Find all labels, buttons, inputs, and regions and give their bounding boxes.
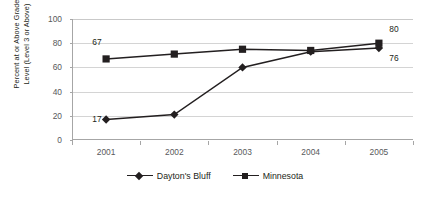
y-tickmark-100 [70,19,73,20]
y-tick-60: 60 [53,62,62,72]
y-tickmark-40 [70,92,73,93]
gridline-20 [73,116,413,117]
x-tickmark-4 [345,141,346,145]
x-tick-2002: 2002 [165,147,184,157]
x-tick-2001: 2001 [97,147,116,157]
chart-legend: Dayton's Bluff Minnesota [0,170,430,181]
gridline-80 [73,43,413,44]
x-tick-2004: 2004 [301,147,320,157]
y-tick-40: 40 [53,87,62,97]
line-chart: Percent at or Above Grade Level (Level 3… [0,0,430,198]
x-tick-2003: 2003 [233,147,252,157]
y-tick-0: 0 [57,135,62,145]
point-label-mn-2005: 80 [389,24,398,34]
x-tickmark-0 [72,141,73,145]
legend-item-daytons-bluff[interactable]: Dayton's Bluff [127,170,211,181]
x-tickmark-1 [140,141,141,145]
gridline-40 [73,92,413,93]
plot-area [72,19,413,140]
point-label-db-2001: 17 [92,114,101,124]
legend-label-minnesota: Minnesota [263,171,304,181]
y-tickmark-80 [70,43,73,44]
y-tick-20: 20 [53,111,62,121]
square-marker-icon [233,170,259,181]
point-label-db-2005: 76 [389,53,398,63]
diamond-marker-icon [127,170,153,181]
point-label-mn-2001: 67 [92,37,101,47]
gridline-100 [73,19,413,20]
y-tickmark-20 [70,116,73,117]
x-tickmark-3 [277,141,278,145]
x-tickmark-2 [208,141,209,145]
y-axis-tick-labels: 100 80 60 40 20 0 [28,19,68,140]
legend-item-minnesota[interactable]: Minnesota [233,170,304,181]
legend-label-daytons-bluff: Dayton's Bluff [157,171,211,181]
y-tickmark-60 [70,67,73,68]
x-axis-tick-labels: 2001 2002 2003 2004 2005 [72,141,413,163]
y-tick-80: 80 [53,38,62,48]
x-tickmark-5 [413,141,414,145]
gridline-60 [73,67,413,68]
y-tick-100: 100 [48,14,62,24]
x-tick-2005: 2005 [370,147,389,157]
